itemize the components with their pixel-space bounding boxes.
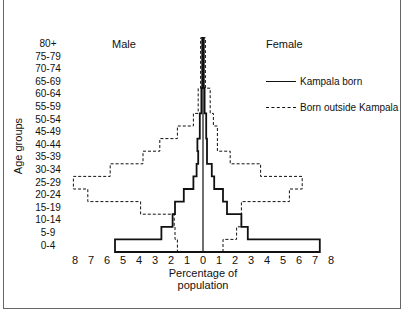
- born-outside-female-outline: [203, 38, 302, 252]
- x-tick-label: 3: [244, 254, 258, 266]
- born-outside-male-outline: [73, 38, 203, 252]
- x-tick-label: 2: [164, 254, 178, 266]
- kampala-born-male-outline: [115, 38, 203, 252]
- x-tick-label: 1: [180, 254, 194, 266]
- kampala-born-female-outline: [203, 38, 320, 252]
- x-tick-label: 0: [196, 254, 210, 266]
- x-tick-label: 7: [84, 254, 98, 266]
- x-tick-label: 3: [148, 254, 162, 266]
- x-tick-label: 8: [68, 254, 82, 266]
- x-tick-label: 7: [308, 254, 322, 266]
- x-tick-label: 6: [292, 254, 306, 266]
- x-tick-label: 6: [100, 254, 114, 266]
- x-tick-label: 8: [324, 254, 338, 266]
- x-axis-label: Percentage of population: [143, 267, 263, 291]
- x-tick-label: 1: [212, 254, 226, 266]
- x-tick-label: 4: [260, 254, 274, 266]
- x-tick-label: 2: [228, 254, 242, 266]
- x-tick-label: 5: [276, 254, 290, 266]
- x-tick-label: 5: [116, 254, 130, 266]
- x-tick-label: 4: [132, 254, 146, 266]
